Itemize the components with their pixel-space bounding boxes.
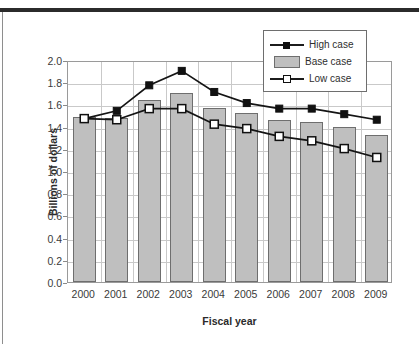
y-tick-mark [63,150,67,151]
y-tick-label: 0.0 [36,277,62,289]
high-case-marker [341,111,348,118]
y-tick-label: 1.6 [36,99,62,111]
legend-label-high-case: High case [309,39,353,50]
figure-left-rule [2,12,3,344]
legend-item-low-case: Low case [270,70,360,87]
legend-item-high-case: High case [270,36,360,53]
high-case-marker [276,105,283,112]
figure-container: - - - -- - - Billions of dollars 2.01.81… [0,0,419,344]
y-tick-mark [63,128,67,129]
low-case-marker [210,120,218,128]
y-tick-mark [63,216,67,217]
y-tick-label: 0.4 [36,233,62,245]
low-case-marker [275,132,283,140]
x-axis-title: Fiscal year [67,315,392,327]
low-case-marker [308,137,316,145]
y-tick-label: 1.4 [36,122,62,134]
low-case-marker [113,116,121,124]
legend-label-base-case: Base case [305,56,352,67]
low-case-marker [145,105,153,113]
cropped-text-artifact: - - - -- - - [0,0,419,8]
low-case-marker [243,125,251,133]
y-tick-mark [63,261,67,262]
low-case-marker [340,145,348,153]
y-tick-mark [63,61,67,62]
figure-top-rule [0,8,419,12]
high-case-marker [178,67,185,74]
high-case-marker [373,116,380,123]
y-tick-mark [63,105,67,106]
legend-item-base-case: Base case [270,53,360,70]
high-case-marker [146,82,153,89]
plot-area [67,61,392,283]
low-case-marker [373,153,381,161]
y-tick-mark [63,283,67,284]
bar-swatch-icon [274,56,300,68]
y-tick-label: 1.8 [36,77,62,89]
high-case-marker [211,88,218,95]
low-case-marker [178,105,186,113]
line-open-square-icon [270,72,304,85]
chart-legend: High case Base case Low case [263,30,367,92]
low-case-marker [80,115,88,123]
x-tick-label: 2009 [356,288,396,300]
y-tick-mark [63,194,67,195]
line-filled-square-icon [270,38,304,51]
y-tick-label: 0.8 [36,188,62,200]
y-tick-mark [63,172,67,173]
y-tick-label: 1.2 [36,144,62,156]
y-tick-mark [63,239,67,240]
cropped-text-glyphs: - - - -- - - [14,0,71,3]
low-case-line [84,109,377,158]
legend-label-low-case: Low case [309,73,351,84]
y-tick-mark [63,83,67,84]
high-case-marker [308,105,315,112]
y-tick-label: 0.6 [36,210,62,222]
high-case-marker [243,100,250,107]
y-tick-label: 1.0 [36,166,62,178]
line-series-overlay [68,62,393,284]
y-tick-label: 0.2 [36,255,62,267]
high-case-marker [113,107,120,114]
y-tick-label: 2.0 [36,55,62,67]
